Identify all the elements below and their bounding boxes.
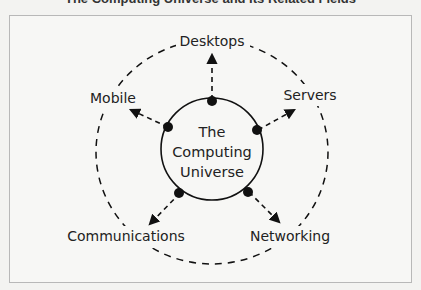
label-desktops: Desktops <box>179 33 244 49</box>
arrow-servers <box>258 110 294 130</box>
node-dot-communications <box>174 188 184 198</box>
center-label-line1: The <box>198 124 226 140</box>
center-label-line3: Universe <box>180 164 244 180</box>
node-dot-networking <box>243 187 253 197</box>
node-dot-desktops <box>207 96 217 106</box>
center-label-line2: Computing <box>172 144 252 160</box>
arrow-networking <box>249 192 279 222</box>
label-communications: Communications <box>67 228 185 244</box>
arrow-communications <box>150 193 180 224</box>
computing-universe-diagram: The Computing Universe Desktops Servers … <box>0 0 421 290</box>
label-mobile: Mobile <box>90 90 136 106</box>
node-dot-servers <box>252 125 262 135</box>
node-dot-mobile <box>163 122 173 132</box>
arrow-mobile <box>131 110 168 127</box>
label-networking: Networking <box>250 228 330 244</box>
label-servers: Servers <box>283 87 336 103</box>
